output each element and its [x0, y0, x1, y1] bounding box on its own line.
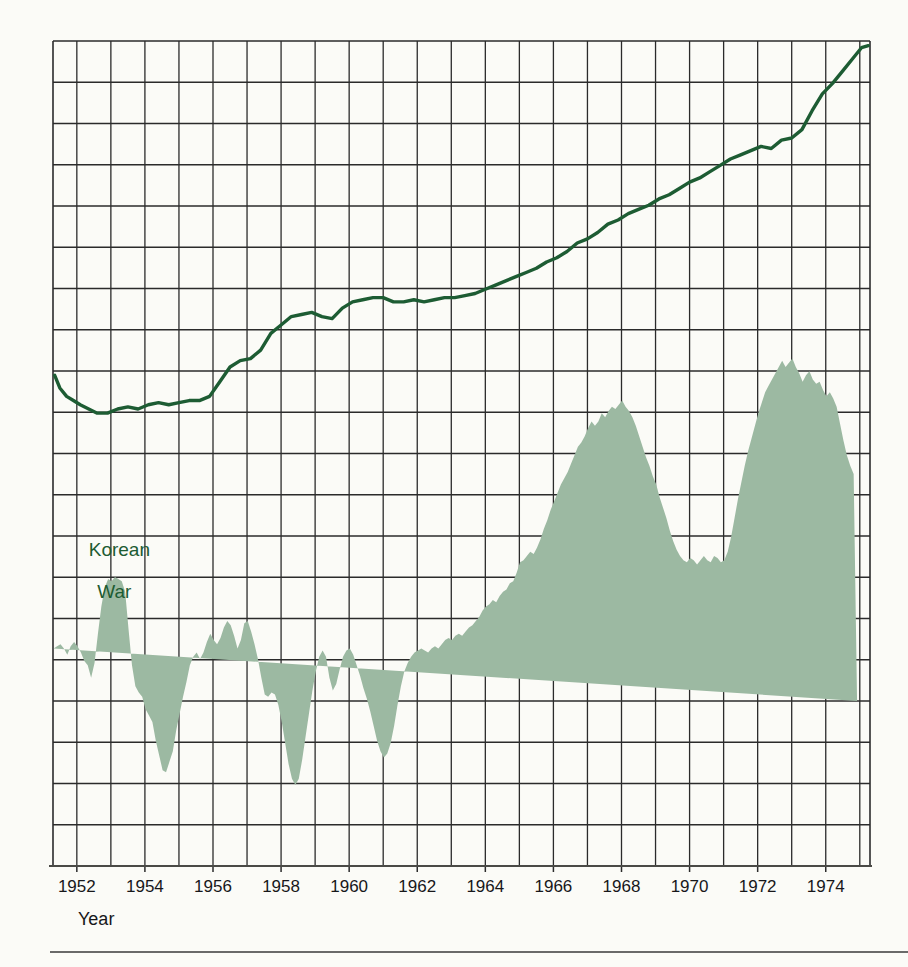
x-tick-label: 1960 — [330, 877, 368, 896]
x-tick-label: 1954 — [126, 877, 164, 896]
x-tick-label: 1964 — [466, 877, 504, 896]
annotation-label: Korean — [89, 539, 150, 560]
x-tick-label: 1962 — [398, 877, 436, 896]
chart-canvas: 1952195419561958196019621964196619681970… — [0, 0, 908, 967]
x-tick-label: 1952 — [58, 877, 96, 896]
figure-page: 1952195419561958196019621964196619681970… — [0, 0, 908, 967]
chart-gridlines — [53, 41, 870, 866]
x-tick-label: 1968 — [603, 877, 641, 896]
x-tick-label: 1966 — [534, 877, 572, 896]
x-tick-label: 1972 — [739, 877, 777, 896]
annotation-label: War — [97, 581, 132, 602]
x-axis-title: Year — [78, 909, 114, 929]
x-tick-label: 1970 — [671, 877, 709, 896]
x-tick-label: 1958 — [262, 877, 300, 896]
x-tick-label: 1974 — [807, 877, 845, 896]
x-tick-label: 1956 — [194, 877, 232, 896]
